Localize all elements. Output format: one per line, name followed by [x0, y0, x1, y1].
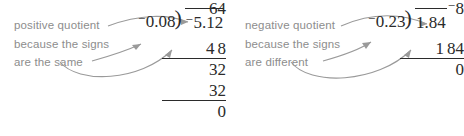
work-digit-b: 84 — [447, 39, 464, 58]
quotient-sign-right: − — [448, 0, 455, 13]
work-row: 48 — [162, 38, 226, 59]
work-digit-a: 4 — [206, 39, 215, 58]
divisor-sign-left: − — [138, 11, 145, 26]
divisor-value-right: 0.23 — [376, 12, 406, 31]
work-row: 184 — [400, 38, 464, 59]
work-row: 0 — [162, 101, 226, 122]
divisor-value-left: 0.08 — [146, 12, 176, 31]
quotient-left: 64 — [178, 0, 226, 19]
work-rows-left: 48 32 32 0 — [162, 38, 226, 122]
division-example-positive: positive quotient because the signs are … — [0, 0, 230, 136]
work-digit-a: 1 — [436, 39, 445, 58]
division-bracket-right — [406, 8, 415, 30]
work-digit-b: 0 — [456, 60, 464, 79]
work-rows-right: 184 0 — [400, 38, 464, 80]
work-digit-b: 8 — [218, 39, 227, 58]
work-digit-b: 32 — [209, 60, 226, 79]
arrow-to-divisor-sign-head — [362, 42, 371, 49]
divisor-sign-right: − — [368, 11, 375, 26]
quotient-value-left: 64 — [209, 0, 226, 18]
long-division-left: 64 −0.08 −5.12 48 32 32 0 — [138, 8, 224, 30]
work-digit-b: 0 — [218, 102, 227, 121]
arrow-to-dividend-path — [291, 50, 411, 78]
division-example-negative: negative quotient because the signs are … — [231, 0, 461, 136]
divisor-right: −0.23 — [368, 8, 406, 33]
work-digit-b: 32 — [209, 81, 226, 100]
quotient-value-right: 8 — [456, 0, 464, 18]
divisor-left: −0.08 — [138, 8, 176, 33]
work-row: 0 — [400, 59, 464, 80]
quotient-right: −8 — [416, 0, 464, 19]
work-row: 32 — [162, 80, 226, 101]
long-division-right: −8 −0.23 1.84 184 0 — [368, 8, 447, 30]
work-row: 32 — [162, 59, 226, 80]
division-bracket-left — [176, 8, 185, 30]
